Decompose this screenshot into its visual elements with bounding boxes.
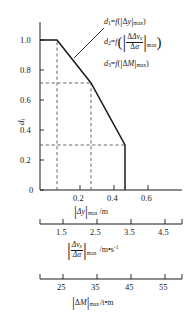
y-tick-label-0.2: 0.2 (20, 156, 31, 165)
y-tick-label-0.4: 0.4 (20, 126, 31, 135)
y-tick-label-0: 0 (29, 186, 33, 195)
legend-leader-line (74, 28, 104, 58)
d2-num-sub: x (140, 35, 142, 41)
x1-title-main: Δy (77, 207, 85, 216)
y-tick-label-0.6: 0.6 (20, 96, 31, 105)
x2-title-sub: max (87, 251, 97, 257)
d2-arg-sub: max (147, 43, 157, 49)
x3-title-main: ΔM (75, 298, 87, 307)
x-axis-primary-ticks (80, 185, 148, 190)
x2-numerator-sub: x (80, 243, 82, 249)
x2-tick-label-3.5: 3.5 (124, 228, 135, 237)
x1-title-unit: /m (100, 207, 108, 216)
x1-tick-label-0.6: 0.6 (141, 194, 152, 203)
x3-title-sub: max (89, 301, 99, 307)
x3-tick-label-25: 25 (57, 283, 66, 292)
fraction: Δvx Δα (71, 241, 83, 259)
legend-item-d1: d1=f(|Δy|max) (104, 17, 146, 27)
x2-title-unit: /m•s (99, 245, 113, 254)
x3-tick-label-55: 55 (159, 283, 168, 292)
y-axis-title: di (16, 119, 26, 125)
x3-tick-label-35: 35 (91, 283, 100, 292)
d3-arg: ΔM (122, 59, 134, 68)
x3-title-unit: /t•m (100, 298, 113, 307)
x2-tick-label-2.5: 2.5 (90, 228, 101, 237)
d2-num-text: Δv (132, 32, 140, 41)
y-axis-ticks (40, 40, 44, 190)
legend-item-d2: d2=f(| ΔΔvx Δα |max) (104, 33, 161, 51)
y-tick-label-1.0: 1.0 (20, 36, 31, 45)
x-axis-secondary-ticks (40, 219, 182, 224)
y-axis-title-main: d (16, 121, 26, 126)
x1-tick-label-0.2: 0.2 (73, 194, 84, 203)
legend-item-d3: d3=f(|ΔM|max) (104, 59, 149, 69)
x-axis-secondary-title: | Δvx Δα |max/m•s-1 (67, 241, 119, 259)
d2-denominator: Δα (126, 43, 143, 51)
d1-arg-sub: max (133, 20, 143, 26)
x2-denominator: Δα (71, 251, 83, 259)
y-tick-label-0.8: 0.8 (20, 66, 31, 75)
d2-fraction: ΔΔvx Δα (126, 33, 143, 51)
x2-title-unit-sup: -1 (114, 244, 119, 250)
x3-tick-label-45: 45 (125, 283, 134, 292)
x-axis-tertiary-ticks (40, 274, 182, 279)
y-axis-title-sub: i (20, 119, 26, 121)
x-axis-tertiary-title: |ΔM|max/t•m (72, 297, 114, 310)
d1-close-paren: ) (143, 17, 146, 26)
d3-close-paren: ) (146, 59, 149, 68)
d1-arg: Δy (122, 17, 131, 26)
x2-tick-label-4.5: 4.5 (158, 228, 169, 237)
x-axis-primary-title: |Δy|max/m (74, 206, 108, 219)
x2-numerator: Δv (72, 240, 80, 249)
x1-title-sub: max (88, 210, 98, 216)
x2-tick-label-1.5: 1.5 (56, 228, 67, 237)
x1-tick-label-0.4: 0.4 (107, 194, 118, 203)
d3-arg-sub: max (136, 62, 146, 68)
d2-close-paren: ) (156, 36, 161, 49)
figure-derating-curve: 1.0 0.8 0.6 0.4 0.2 0 di 0.2 0.4 0.6 |Δy… (0, 0, 191, 320)
